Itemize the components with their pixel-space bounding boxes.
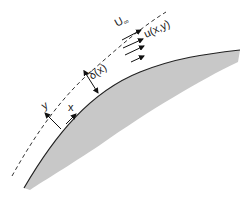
velocity-arrow bbox=[125, 46, 144, 55]
solid-body bbox=[24, 50, 240, 190]
y-axis-label: y bbox=[39, 98, 50, 111]
velocity-profile-arrows bbox=[122, 30, 144, 62]
velocity-arrow bbox=[123, 39, 143, 48]
thickness-label: δ(x) bbox=[86, 61, 108, 82]
y-axis-arrow bbox=[45, 113, 61, 129]
free-stream-label: U∞ bbox=[112, 12, 130, 30]
boundary-layer-diagram: U∞ u(x,y) δ(x) x y bbox=[0, 0, 250, 198]
x-axis-label: x bbox=[68, 101, 74, 113]
velocity-profile-label: u(x,y) bbox=[142, 17, 172, 39]
velocity-arrow bbox=[122, 30, 141, 40]
velocity-arrow bbox=[131, 56, 144, 62]
